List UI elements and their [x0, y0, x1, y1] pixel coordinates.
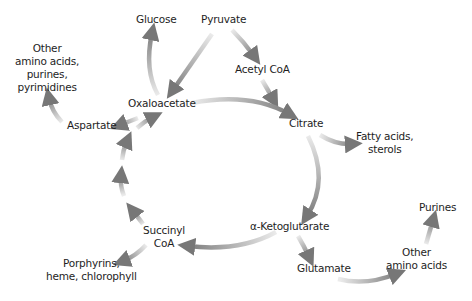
- arrow-citrate-to-alpha-ketoglutarate: [307, 136, 319, 216]
- node-oxaloacetate: Oxaloacetate: [128, 97, 196, 110]
- arrow-oxaloacetate-to-citrate: [192, 99, 289, 114]
- node-pyruvate: Pyruvate: [201, 13, 246, 26]
- node-alpha-ketoglutarate: α-Ketoglutarate: [250, 220, 329, 233]
- arrow-alpha-ketoglutarate-to-succinyl-coa: [188, 232, 276, 247]
- node-succinyl-coa: Succinyl CoA: [143, 224, 185, 250]
- arrow-aspartate-to-other-amino-acids: [49, 98, 62, 122]
- arrow-other-amino-acids-to-purines: [426, 220, 433, 244]
- node-other-amino-acids-purines-pyrimidines: Other amino acids, purines, pyrimidines: [15, 42, 79, 94]
- arrow-citrate-to-fatty-acids: [320, 135, 352, 144]
- arrow-glutamate-to-other-amino-acids: [338, 274, 396, 282]
- arrow-oxaloacetate-to-aspartate: [120, 118, 138, 125]
- arrow-acetyl-coa-to-citrate: [262, 80, 273, 99]
- node-acetyl-coa: Acetyl CoA: [235, 63, 290, 76]
- arrow-alpha-ketoglutarate-to-glutamate: [298, 236, 309, 257]
- node-glucose: Glucose: [136, 13, 176, 26]
- arrow-pyruvate-to-acetyl-coa: [232, 30, 254, 56]
- node-porphyrins-heme-chlorophyll: Porphyrins, heme, chlorophyll: [46, 257, 137, 283]
- arrow-cycle-segment-3: [122, 141, 127, 160]
- node-citrate: Citrate: [289, 117, 323, 130]
- arrow-cycle-segment-1: [133, 211, 143, 224]
- node-glutamate: Glutamate: [297, 262, 351, 275]
- arrow-oxaloacetate-to-glucose: [149, 33, 158, 95]
- node-purines: Purines: [419, 201, 456, 214]
- node-fatty-acids-sterols: Fatty acids, sterols: [356, 130, 414, 156]
- arrow-cycle-segment-4: [137, 117, 153, 128]
- arrow-cycle-segment-2: [121, 176, 124, 196]
- node-aspartate: Aspartate: [67, 119, 116, 132]
- arrow-pyruvate-to-oxaloacetate: [173, 34, 212, 90]
- node-other-amino-acids: Other amino acids: [386, 246, 447, 272]
